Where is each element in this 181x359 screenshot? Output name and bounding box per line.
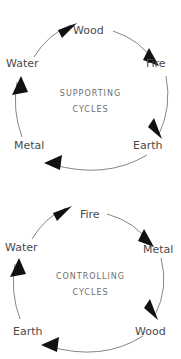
arc-water-to-fire: [32, 206, 72, 239]
arc-wood-to-earth: [41, 336, 143, 352]
center-label-line2: CYCLES: [0, 287, 181, 298]
supporting-cycles-diagram: Wood Fire Earth Metal Water SUPPORTING C…: [0, 0, 181, 180]
wuxing-cycles-figure: Wood Fire Earth Metal Water SUPPORTING C…: [0, 0, 181, 359]
node-label-fire: Fire: [146, 58, 166, 70]
node-label-wood: Wood: [73, 25, 104, 37]
node-label-wood: Wood: [135, 326, 166, 338]
center-label-line1: SUPPORTING: [0, 88, 181, 99]
node-label-earth: Earth: [133, 140, 163, 152]
node-label-metal: Metal: [143, 244, 173, 256]
node-label-water: Water: [5, 242, 38, 254]
arc-earth-to-metal: [44, 155, 147, 170]
center-label-line2: CYCLES: [0, 104, 181, 115]
node-label-metal: Metal: [14, 140, 44, 152]
controlling-cycles-diagram: Fire Metal Wood Earth Water CONTROLLING …: [0, 180, 181, 359]
node-label-earth: Earth: [13, 326, 43, 338]
node-label-fire: Fire: [80, 209, 100, 221]
arc-water-to-wood: [34, 23, 77, 57]
node-label-water: Water: [6, 58, 39, 70]
center-label-line1: CONTROLLING: [0, 271, 181, 282]
